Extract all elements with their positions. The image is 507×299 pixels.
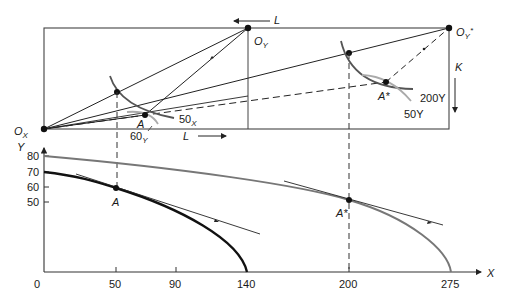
y-tick-70: 70: [27, 166, 39, 178]
isoquant-200y: [341, 41, 413, 89]
oy-origin-dot: [245, 25, 251, 31]
iso-50y-label: 50Y: [404, 108, 424, 120]
ox-to-oystar-diagonal: [44, 28, 449, 129]
tangent-at-a: [76, 174, 260, 234]
edgeworth-box: OX OY OY* L L K A A* 50X 60Y 200Y 50Y: [14, 14, 474, 145]
y-tick-80: 80: [27, 150, 39, 162]
k-label: K: [455, 61, 463, 73]
tangent-at-astar: [284, 181, 443, 225]
ppf-chart: Y X 0 80 70 60 50 50 90 140 200 275 A A*: [17, 141, 495, 290]
oystar-label: OY*: [456, 26, 474, 41]
x-tick-90: 90: [169, 278, 181, 290]
iso-60y-label: 60Y: [130, 130, 148, 145]
origin-label: 0: [34, 278, 40, 290]
l-bottom-label: L: [183, 130, 189, 142]
ox-origin-dot: [41, 126, 47, 132]
ppf-expanded-curve: [44, 156, 451, 272]
isoquant-50x: [110, 76, 174, 118]
y-tick-50: 50: [27, 196, 39, 208]
astar-box-label: A*: [377, 90, 390, 102]
edgeworth-box-ppf-diagram: OX OY OY* L L K A A* 50X 60Y 200Y 50Y Y …: [0, 0, 507, 299]
x-tick-200: 200: [339, 278, 357, 290]
x-axis-label: X: [486, 267, 495, 279]
y-axis-label: Y: [17, 141, 25, 153]
l-top-label: L: [274, 14, 280, 26]
oy-label: OY: [254, 35, 269, 50]
x-tick-275: 275: [441, 278, 459, 290]
oystar-origin-dot: [446, 25, 452, 31]
iso-50x-label: 50X: [179, 113, 197, 128]
x-tick-50: 50: [109, 278, 121, 290]
iso-200y-label: 200Y: [420, 92, 446, 104]
point-a-label: A: [111, 196, 119, 208]
point-astar-dot: [346, 197, 352, 203]
point-a-dot: [113, 185, 119, 191]
ox-label: OX: [14, 125, 29, 140]
point-astar-box-dot: [383, 79, 389, 85]
x-tick-140: 140: [237, 278, 255, 290]
a-box-label: A: [136, 118, 144, 130]
point-astar-label: A*: [335, 207, 348, 219]
y-tick-60: 60: [27, 181, 39, 193]
